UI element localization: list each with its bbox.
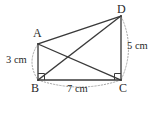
measure-arc-ab (32, 44, 38, 80)
segment-ac (38, 44, 121, 80)
vertex-label-a: A (33, 27, 42, 39)
figure-edges (38, 16, 121, 80)
measure-label-ab: 3 cm (6, 55, 27, 66)
measure-label-dc: 5 cm (127, 41, 148, 52)
segment-ad (38, 16, 121, 44)
segment-bd (38, 16, 121, 80)
geometry-figure: A B C D 3 cm 5 cm 7 cm (0, 0, 162, 113)
vertex-label-d: D (117, 3, 126, 15)
measure-label-bc: 7 cm (67, 84, 88, 95)
vertex-label-b: B (31, 82, 39, 94)
vertex-label-c: C (119, 82, 127, 94)
